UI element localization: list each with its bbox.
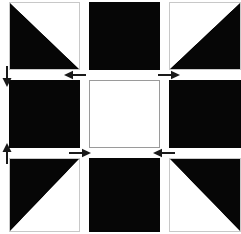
patch-top-left — [9, 2, 80, 70]
patch-top-right — [169, 2, 241, 70]
quilt-block-diagram — [0, 0, 241, 234]
half-square-triangle-icon — [10, 3, 79, 69]
patch-middle-left — [9, 80, 80, 148]
half-square-triangle-icon — [170, 159, 240, 231]
patch-center — [89, 80, 160, 148]
half-square-triangle-icon — [10, 159, 79, 231]
patch-bottom-right — [169, 158, 241, 232]
patch-top-center — [89, 2, 160, 70]
patch-bottom-left — [9, 158, 80, 232]
patch-bottom-center — [89, 158, 160, 232]
half-square-triangle-icon — [170, 3, 240, 69]
patch-middle-right — [169, 80, 241, 148]
